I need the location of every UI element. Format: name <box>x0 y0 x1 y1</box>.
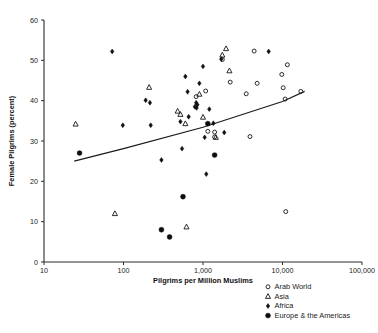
data-point <box>227 68 232 73</box>
legend-label: Africa <box>275 301 295 310</box>
data-point <box>77 151 82 156</box>
trend-line-group <box>74 91 304 161</box>
data-point <box>252 49 256 53</box>
data-point <box>201 64 205 69</box>
data-point <box>224 46 229 51</box>
x-axis-title: Pilgrims per Million Muslims <box>153 276 253 285</box>
data-point <box>203 135 207 140</box>
data-point <box>148 100 152 105</box>
data-point <box>280 72 284 76</box>
regression-trend-line <box>74 91 304 161</box>
data-point <box>205 121 210 126</box>
data-point <box>73 121 78 126</box>
data-points-group <box>73 46 303 240</box>
data-point <box>284 210 288 214</box>
data-point <box>159 227 164 232</box>
data-point <box>222 130 226 135</box>
data-point <box>213 130 217 134</box>
x-tick-label: 100 <box>118 266 130 275</box>
y-axis: 0102030405060 <box>30 16 44 267</box>
data-point <box>204 89 208 93</box>
data-point <box>167 235 172 240</box>
data-point <box>198 81 202 86</box>
legend-label: Europe & the Americas <box>275 311 351 320</box>
legend-marker-open-circle <box>266 285 270 289</box>
data-point <box>255 81 259 85</box>
data-point <box>228 80 232 84</box>
data-point <box>110 49 114 54</box>
data-point <box>181 194 186 199</box>
y-axis-title: Female Pilgrims (percent) <box>7 95 16 186</box>
series-asia <box>73 46 232 229</box>
data-point <box>121 123 125 128</box>
legend-marker-diamond <box>266 304 270 309</box>
data-point <box>205 172 209 177</box>
data-point <box>212 153 217 158</box>
data-point <box>248 135 252 139</box>
data-point <box>267 49 271 54</box>
y-tick-label: 10 <box>30 217 38 226</box>
series-europe-the-americas <box>77 121 217 239</box>
data-point <box>144 98 148 103</box>
y-tick-label: 30 <box>30 137 38 146</box>
data-point <box>149 123 153 128</box>
data-point <box>212 121 216 126</box>
data-point <box>147 85 152 90</box>
x-tick-label: 10,000 <box>272 266 294 275</box>
legend-marker-open-triangle <box>265 294 270 299</box>
data-point <box>206 129 210 133</box>
data-point <box>175 108 180 113</box>
data-point <box>183 121 188 126</box>
x-tick-label: 10 <box>40 266 48 275</box>
y-tick-label: 20 <box>30 177 38 186</box>
y-tick-label: 60 <box>30 16 38 25</box>
data-point <box>178 112 183 117</box>
data-point <box>160 158 164 163</box>
data-point <box>285 63 289 67</box>
data-point <box>197 91 202 96</box>
scatter-plot-svg: 0102030405060 101001,00010,000100,000 Pi… <box>0 0 378 333</box>
legend-label: Asia <box>275 292 290 301</box>
data-point <box>200 114 205 119</box>
x-tick-label: 1,000 <box>194 266 212 275</box>
y-axis-ticks: 0102030405060 <box>30 16 44 267</box>
y-tick-label: 40 <box>30 96 38 105</box>
data-point <box>186 89 190 94</box>
y-tick-label: 50 <box>30 56 38 65</box>
data-point <box>208 107 212 112</box>
x-tick-label: 100,000 <box>349 266 375 275</box>
data-point <box>184 74 188 79</box>
data-point <box>180 146 184 151</box>
series-arab-world <box>194 49 303 213</box>
data-point <box>187 114 191 119</box>
y-tick-label: 0 <box>34 258 38 267</box>
legend-label: Arab World <box>275 282 312 291</box>
data-point <box>112 211 117 216</box>
legend-marker-filled-circle <box>266 313 271 318</box>
x-axis-ticks: 101001,00010,000100,000 <box>40 262 375 275</box>
chart-legend: Arab WorldAsiaAfricaEurope & the America… <box>265 282 350 320</box>
data-point <box>281 86 285 90</box>
chart-figure: 0102030405060 101001,00010,000100,000 Pi… <box>0 0 378 333</box>
x-axis: 101001,00010,000100,000 <box>40 262 375 275</box>
data-point <box>220 52 225 57</box>
data-point <box>184 224 189 229</box>
data-point <box>179 119 183 124</box>
data-point <box>244 92 248 96</box>
